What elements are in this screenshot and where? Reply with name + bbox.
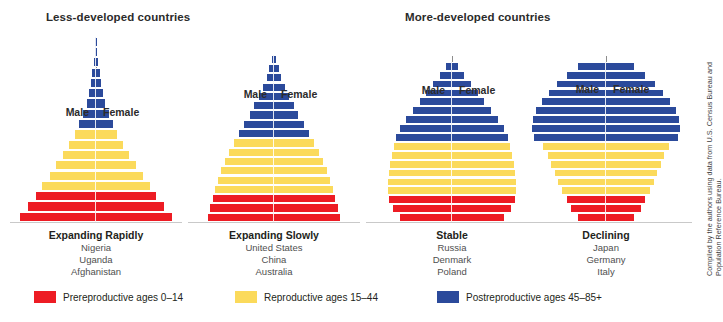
legend-swatch	[235, 291, 257, 303]
bar-female	[96, 181, 150, 191]
bar-male	[229, 148, 274, 157]
legend-item: Prereproductive ages 0–14	[34, 288, 183, 306]
age-bar-row	[518, 71, 694, 80]
bar-male	[578, 213, 606, 222]
caption-country: United States	[186, 242, 362, 254]
age-bar-row	[186, 110, 362, 119]
caption-country: Poland	[364, 266, 540, 278]
caption-country: Nigeria	[8, 242, 184, 254]
bar-female	[274, 203, 338, 212]
bar-female	[274, 110, 298, 119]
age-bar-row	[8, 57, 184, 67]
age-bar-row	[364, 71, 540, 80]
bar-male	[567, 195, 606, 204]
bar-male	[225, 157, 274, 166]
bar-female	[96, 37, 97, 47]
bar-male	[75, 129, 96, 139]
bar-male	[543, 142, 606, 151]
bar-female	[606, 62, 634, 71]
age-bar-row	[186, 138, 362, 147]
bar-male	[440, 71, 452, 80]
age-bar-row	[364, 124, 540, 133]
group-heading-less-developed: Less-developed countries	[46, 11, 190, 23]
caption-country: Afghanistan	[8, 266, 184, 278]
age-bar-row	[518, 204, 694, 213]
caption-title: Stable	[364, 229, 540, 242]
bar-female	[606, 204, 641, 213]
age-bar-row	[186, 185, 362, 194]
bar-male	[420, 97, 452, 106]
age-bar-row	[8, 171, 184, 181]
bar-male	[555, 169, 606, 178]
age-bar-row	[518, 178, 694, 187]
age-bar-row	[186, 101, 362, 110]
bar-female	[606, 195, 645, 204]
bar-male	[213, 194, 274, 203]
age-bar-row	[364, 133, 540, 142]
bar-female	[452, 62, 458, 71]
caption-country: Uganda	[8, 254, 184, 266]
age-bar-row	[518, 160, 694, 169]
bar-female	[274, 213, 340, 222]
bar-male	[79, 119, 96, 129]
bar-female	[274, 138, 314, 147]
age-bar-row	[364, 213, 540, 222]
bar-female	[274, 73, 281, 82]
age-bar-row	[518, 169, 694, 178]
source-credit: Compiled by the authors using data from …	[706, 60, 723, 276]
age-bar-row	[8, 140, 184, 150]
caption-country: China	[186, 254, 362, 266]
caption-title: Expanding Rapidly	[8, 229, 184, 242]
bar-female	[606, 106, 676, 115]
age-bar-row	[8, 78, 184, 88]
bar-female	[96, 212, 172, 222]
bar-male	[89, 88, 96, 98]
age-bar-row	[364, 178, 540, 187]
bar-female	[452, 115, 498, 124]
label-male: Male	[422, 84, 445, 96]
legend-label: Reproductive ages 15–44	[264, 292, 378, 303]
caption-country: Denmark	[364, 254, 540, 266]
bar-male	[56, 160, 96, 170]
bar-female	[452, 178, 516, 187]
bar-female	[452, 124, 504, 133]
bar-female	[606, 169, 657, 178]
bar-female	[274, 55, 276, 64]
bar-male	[562, 186, 606, 195]
age-bar-row	[518, 142, 694, 151]
label-male: Male	[576, 83, 599, 95]
age-bar-row	[364, 160, 540, 169]
pyramid-baseline	[520, 222, 692, 223]
age-bar-row	[364, 142, 540, 151]
label-female: Female	[459, 84, 495, 96]
age-bar-row	[364, 204, 540, 213]
caption-country: Australia	[186, 266, 362, 278]
bar-female	[96, 129, 117, 139]
age-bar-row	[186, 83, 362, 92]
bar-male	[558, 178, 606, 187]
bar-male	[42, 181, 96, 191]
age-bar-row	[186, 55, 362, 64]
label-female: Female	[613, 83, 649, 95]
caption-title: Declining	[518, 229, 694, 242]
bar-male	[534, 133, 606, 142]
legend-swatch	[437, 291, 459, 303]
bar-male	[388, 178, 452, 187]
bar-female	[606, 115, 679, 124]
bar-male	[396, 133, 452, 142]
pyramid-declining	[518, 26, 694, 222]
label-male: Male	[244, 88, 267, 100]
age-bar-row	[8, 109, 184, 119]
age-bar-row	[364, 151, 540, 160]
age-bar-row	[518, 106, 694, 115]
bar-male	[218, 176, 274, 185]
bar-male	[250, 110, 274, 119]
bar-male	[389, 195, 452, 204]
legend-swatch	[34, 291, 56, 303]
bar-female	[96, 119, 113, 129]
age-bar-row	[186, 157, 362, 166]
legend-label: Postreproductive ages 45–85+	[466, 292, 602, 303]
age-bar-row	[186, 64, 362, 73]
bar-male	[406, 115, 452, 124]
age-bar-row	[518, 124, 694, 133]
